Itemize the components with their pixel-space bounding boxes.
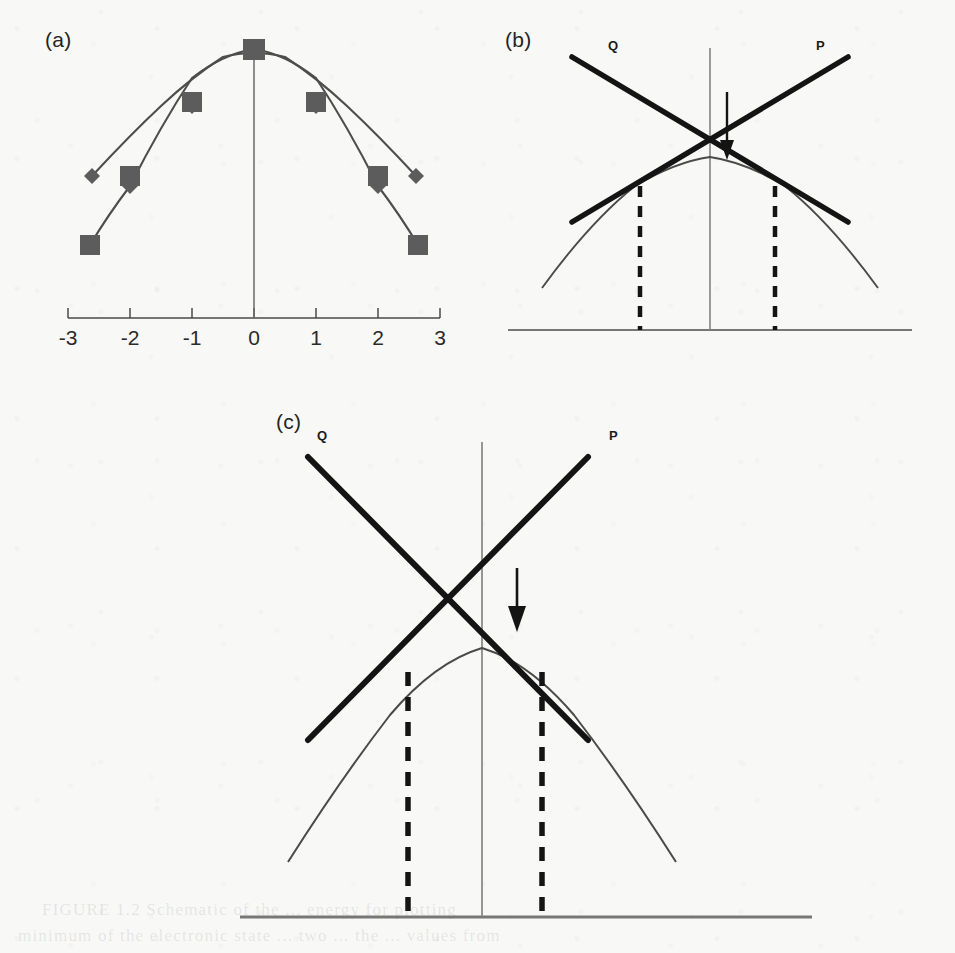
- ghost-caption-line-2: minimum of the electronic state ... two …: [18, 926, 501, 946]
- ghost-caption-line-1: FIGURE 1.2 Schematic of the ... energy f…: [42, 900, 457, 920]
- panel-c-label-q: Q: [317, 428, 327, 443]
- panel-c-diagram: [230, 400, 850, 935]
- panel-b-label-q: Q: [608, 38, 618, 53]
- panel-a-tick-label-4: 1: [296, 326, 336, 350]
- panel-a-tick-label-0: -3: [48, 326, 88, 350]
- figure-container: (a): [0, 0, 955, 953]
- panel-a: (a): [0, 0, 480, 370]
- panel-c: (c) Q P: [230, 400, 850, 940]
- panel-c-arrow-down: [508, 568, 526, 632]
- panel-b: (b) Q P: [480, 0, 955, 370]
- panel-b-label-p: P: [816, 38, 825, 53]
- panel-a-tick-label-2: -1: [172, 326, 212, 350]
- panel-a-tick-label-1: -2: [110, 326, 150, 350]
- panel-a-tick-label-5: 2: [358, 326, 398, 350]
- panel-a-tick-label-6: 3: [420, 326, 460, 350]
- panel-c-label-p: P: [609, 428, 618, 443]
- panel-a-plot: [0, 0, 480, 350]
- panel-b-diagram: [480, 0, 955, 360]
- panel-a-tick-label-3: 0: [234, 326, 274, 350]
